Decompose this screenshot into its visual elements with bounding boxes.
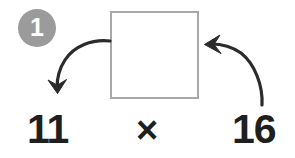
diagram-canvas: 1 11 × 16 xyxy=(0,0,295,158)
step-badge: 1 xyxy=(18,9,56,47)
arrow-box-to-left-operand-icon xyxy=(48,41,110,94)
equation-right-operand: 16 xyxy=(232,101,276,158)
answer-box[interactable] xyxy=(110,11,199,99)
arrow-right-operand-to-box-icon xyxy=(205,35,263,105)
equation-row: 11 × 16 xyxy=(0,101,295,158)
equation-left-operand: 11 xyxy=(27,101,68,158)
multiplication-sign: × xyxy=(136,102,157,158)
step-badge-label: 1 xyxy=(30,15,44,40)
